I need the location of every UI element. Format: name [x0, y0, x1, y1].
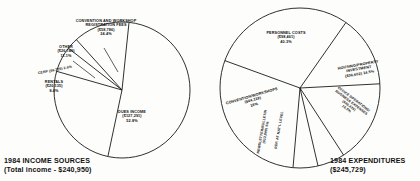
income-pie-chart: CONVENTION AND WORKSHOP REGISTRATION FEE…	[0, 0, 210, 181]
figure-canvas: CONVENTION AND WORKSHOP REGISTRATION FEE…	[0, 0, 420, 181]
expenditures-slice-divider-national-newsletter	[300, 88, 318, 166]
expenditures-slice-divider-newsletter-convention	[293, 88, 300, 168]
expenditures-label-personnel: PERSONNEL COSTS ($98,461) 40.3%	[246, 31, 326, 44]
expenditures-pie-svg	[210, 0, 420, 181]
income-leader-convention	[104, 48, 118, 72]
income-label-convention: CONVENTION AND WORKSHOP REGISTRATION FEE…	[63, 19, 149, 37]
income-chart-caption: 1984 INCOME SOURCES (Total income - $240…	[4, 157, 92, 175]
income-label-other: OTHER ($26,749) 11.1%	[46, 45, 86, 58]
income-label-rentals: RENTALS ($20,135) 8.4%	[32, 80, 76, 93]
expenditures-chart-caption: 1984 EXPENDITURES ($245,729)	[330, 157, 406, 175]
expenditures-pie-chart: PERSONNEL COSTS ($98,461) 40.3% HOUSING/…	[210, 0, 420, 181]
income-label-dues: DUES INCOME ($127,291) 52.8%	[104, 110, 160, 123]
